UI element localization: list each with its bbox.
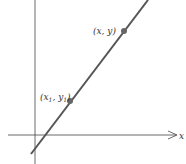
x-axis-label: x (179, 131, 184, 141)
point-x-y-label: (x, y) (93, 26, 116, 36)
diagram-canvas: x (x, y) (x1, y1) (0, 0, 186, 164)
point-x1-y1-label: (x1, y1) (40, 92, 71, 103)
straight-line (31, 0, 148, 154)
point-x-y (121, 28, 127, 34)
